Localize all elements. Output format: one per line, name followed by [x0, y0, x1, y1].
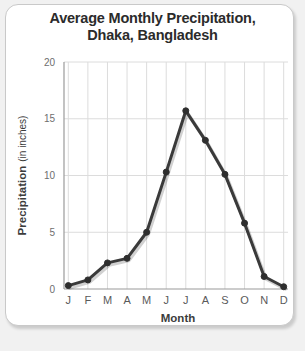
x-tick-11: D: [280, 294, 288, 306]
y-tick-20: 20: [44, 57, 56, 68]
x-tick-7: A: [202, 294, 210, 306]
data-point-J: [65, 283, 71, 289]
x-tick-1: F: [85, 294, 92, 306]
x-tick-5: J: [163, 294, 169, 306]
data-series-line: [68, 111, 285, 289]
x-tick-6: J: [183, 294, 189, 306]
plot-area: 05101520 JFMAMJJASOND Precipitation(in i…: [0, 0, 305, 351]
x-axis-title-text: Month: [161, 312, 195, 324]
x-tick-0: J: [66, 294, 72, 306]
y-tick-5: 5: [49, 227, 55, 238]
chart-page: Average Monthly Precipitation, Dhaka, Ba…: [0, 0, 305, 351]
x-tick-10: N: [260, 294, 268, 306]
data-point-A: [124, 255, 130, 261]
data-point-O: [242, 220, 248, 226]
data-point-F: [85, 277, 91, 283]
data-point-M: [104, 260, 110, 266]
x-axis-title: Month: [161, 312, 195, 324]
gridlines: [64, 62, 288, 289]
data-point-D: [281, 284, 287, 290]
data-point-J: [163, 169, 169, 175]
data-point-N: [261, 274, 267, 280]
x-tick-4: M: [142, 294, 151, 306]
x-tick-labels: JFMAMJJASOND: [66, 294, 288, 306]
data-point-markers: [65, 108, 286, 290]
x-tick-8: S: [221, 294, 228, 306]
x-tick-3: A: [123, 294, 131, 306]
x-tick-9: O: [240, 294, 249, 306]
y-tick-0: 0: [49, 284, 55, 295]
data-point-J: [183, 108, 189, 114]
precipitation-line-chart: 05101520 JFMAMJJASOND Precipitation(in i…: [0, 0, 305, 351]
data-point-S: [222, 171, 228, 177]
data-point-M: [144, 229, 150, 235]
y-tick-labels: 05101520: [44, 57, 56, 295]
y-tick-10: 10: [44, 170, 56, 181]
data-point-A: [202, 137, 208, 143]
y-axis-title-text: Precipitation(in inches): [16, 116, 28, 236]
y-axis-title: Precipitation(in inches): [16, 116, 28, 236]
y-tick-15: 15: [44, 113, 56, 124]
x-tick-2: M: [103, 294, 112, 306]
